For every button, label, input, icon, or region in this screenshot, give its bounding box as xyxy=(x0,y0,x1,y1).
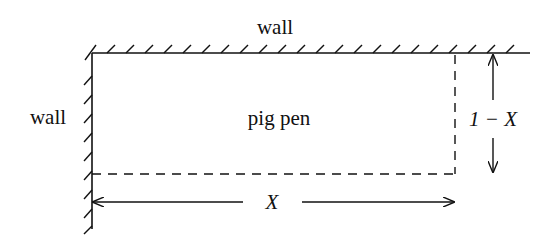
pig-pen-label: pig pen xyxy=(248,106,311,130)
top-wall-label: wall xyxy=(257,15,293,39)
pig-pen-diagram: wall wall pig pen 1 − X X xyxy=(0,0,550,247)
height-label: 1 − X xyxy=(469,107,518,131)
top-wall xyxy=(85,45,530,60)
left-wall xyxy=(84,53,92,234)
width-label: X xyxy=(265,190,280,214)
left-wall-label: wall xyxy=(30,105,66,129)
left-wall-hatching xyxy=(84,76,92,234)
